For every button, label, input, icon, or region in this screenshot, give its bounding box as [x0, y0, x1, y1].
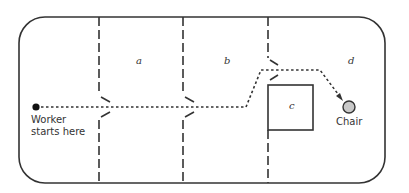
start-point-icon — [32, 103, 39, 110]
start-label-line1: Worker — [31, 114, 85, 126]
wall-3 — [268, 17, 278, 183]
door-flap — [270, 60, 278, 65]
room-label-d: d — [348, 55, 354, 66]
room-label-a: a — [136, 55, 142, 66]
door-flap — [101, 112, 110, 117]
wall-1 — [99, 17, 110, 183]
door-flap — [185, 97, 194, 102]
door-flap — [270, 75, 278, 80]
chair-icon — [343, 101, 355, 113]
wall-2 — [183, 17, 194, 183]
door-flap — [101, 97, 110, 102]
chair-label: Chair — [336, 116, 362, 128]
room-label-b: b — [224, 55, 230, 66]
worker-path — [36, 70, 341, 107]
door-flap — [185, 112, 194, 117]
room-label-c: c — [289, 100, 295, 111]
arrowhead-icon — [336, 93, 343, 101]
floor-plan — [0, 0, 409, 193]
start-label: Worker starts here — [31, 114, 85, 138]
start-label-line2: starts here — [31, 126, 85, 138]
building-outline — [19, 17, 385, 183]
